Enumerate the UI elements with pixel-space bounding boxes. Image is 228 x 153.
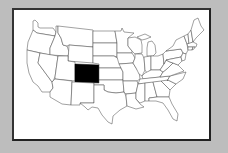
- state-maine: [191, 18, 204, 42]
- state-mississippi: [136, 83, 145, 103]
- state-colorado: [75, 64, 99, 83]
- state-iowa: [117, 53, 135, 64]
- state-kansas: [99, 68, 123, 80]
- state-north-dakota: [93, 31, 117, 43]
- state-south-dakota: [93, 43, 117, 57]
- state-wyoming: [68, 45, 93, 63]
- us-map: [0, 0, 228, 153]
- state-arkansas: [123, 81, 138, 94]
- state-outlines: [27, 18, 204, 124]
- state-montana: [58, 26, 93, 47]
- state-arizona: [50, 79, 72, 105]
- state-new-mexico: [71, 82, 94, 105]
- state-florida: [149, 97, 178, 121]
